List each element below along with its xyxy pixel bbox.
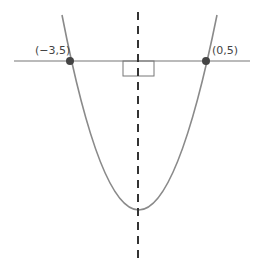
point-left [66, 57, 74, 65]
parabola-diagram: (−3,5) (0,5) [0, 0, 265, 269]
point-left-label: (−3,5) [35, 44, 70, 57]
parabola-curve [62, 15, 217, 210]
point-right-label: (0,5) [212, 44, 238, 57]
point-right [202, 57, 210, 65]
